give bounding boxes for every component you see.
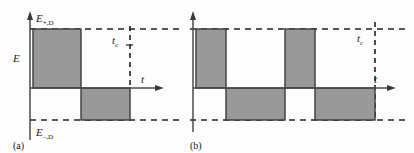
pulse-positive-block-a xyxy=(33,29,81,88)
x-axis-label-b: t xyxy=(374,73,378,85)
critical-time-label-a: tc xyxy=(112,34,118,49)
y-axis-label-a: E xyxy=(12,52,20,64)
pulse-negative-block-a xyxy=(81,88,130,120)
y-axis-arrow-b xyxy=(190,11,196,20)
x-axis-arrow-a xyxy=(155,85,164,91)
pulse-negative-block-b-2 xyxy=(315,88,375,120)
panel-label-a: (a) xyxy=(13,140,24,152)
x-axis-label-a: t xyxy=(141,73,145,85)
lower-level-label-a: E–,D xyxy=(35,126,53,141)
pulse-negative-block-b-1 xyxy=(226,88,285,120)
figure-container: E+,D E E–,D tc t (a) xyxy=(0,0,414,153)
y-axis-arrow-a xyxy=(27,11,33,20)
pulse-positive-block-b-1 xyxy=(196,29,226,88)
x-axis-arrow-b xyxy=(387,85,396,91)
panel-b: tc t (b) xyxy=(190,11,405,152)
waveform-figure: E+,D E E–,D tc t (a) xyxy=(0,0,414,153)
pulse-positive-block-b-2 xyxy=(285,29,315,88)
upper-level-label-a: E+,D xyxy=(35,12,54,27)
critical-time-label-b: tc xyxy=(357,32,363,47)
panel-a: E+,D E E–,D tc t (a) xyxy=(12,11,184,152)
panel-label-b: (b) xyxy=(190,140,202,152)
